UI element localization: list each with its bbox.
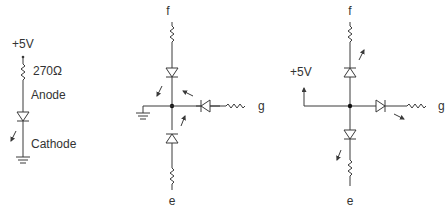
light-e-icon — [181, 116, 185, 126]
light-f-icon — [359, 50, 364, 60]
junction-node — [348, 104, 352, 108]
led-f-icon — [166, 68, 178, 77]
single-led-circuit: +5V 270Ω Anode Cathode — [11, 37, 77, 163]
segment-e-label: e — [169, 194, 176, 208]
light-emission-icon — [11, 131, 16, 141]
led-icon — [17, 112, 29, 121]
ground-icon — [16, 157, 30, 163]
resistor-value: 270Ω — [33, 64, 62, 78]
common-cathode-circuit: f g e — [136, 4, 265, 208]
common-anode-circuit: f +5V g e — [290, 4, 445, 208]
led-g-icon — [376, 100, 385, 112]
led-g-icon — [201, 100, 210, 112]
anode-label: Anode — [31, 88, 66, 102]
segment-e-label: e — [347, 194, 354, 208]
led-e-icon — [166, 134, 178, 143]
resistor-e-icon — [348, 160, 352, 176]
resistor-g-icon — [226, 104, 245, 108]
resistor-f-icon — [170, 26, 174, 42]
light-f-icon — [157, 86, 162, 96]
resistor-g-icon — [407, 104, 426, 108]
segment-g-label: g — [258, 99, 265, 113]
segment-f-label: f — [348, 4, 352, 18]
supply-label: +5V — [290, 65, 312, 79]
led-e-icon — [344, 130, 356, 139]
led-f-icon — [344, 68, 356, 77]
light-g-icon — [394, 114, 404, 119]
light-e-icon — [337, 150, 341, 160]
resistor-icon — [21, 64, 25, 80]
resistor-f-icon — [348, 26, 352, 42]
cathode-label: Cathode — [31, 137, 77, 151]
segment-f-label: f — [166, 4, 170, 18]
ground-icon — [136, 113, 150, 119]
segment-g-label: g — [438, 99, 445, 113]
led-circuit-diagram: +5V 270Ω Anode Cathode f — [0, 0, 448, 216]
resistor-e-icon — [170, 168, 174, 184]
supply-label: +5V — [12, 37, 34, 51]
light-g-icon — [183, 91, 193, 96]
